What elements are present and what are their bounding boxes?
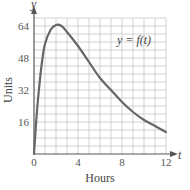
y-tick-label: 48 [18,52,30,64]
y-tick-label: 32 [18,84,29,96]
x-tick-label: 12 [161,156,172,168]
y-tick-label: 64 [18,20,30,32]
x-tick-labels: 04812 [31,156,171,168]
y-tick-labels: 16324864 [18,20,30,128]
curve-label: y = f(t) [116,33,151,47]
x-tick-label: 8 [119,156,125,168]
x-axis-variable: t [178,148,182,162]
axes [31,6,178,157]
x-tick-label: 4 [75,156,81,168]
y-axis-title: Units [1,77,15,103]
x-axis-title: Hours [85,171,115,185]
x-tick-label: 0 [31,156,37,168]
y-tick-label: 16 [18,116,30,128]
y-axis-variable: y [30,0,37,11]
chart: 04812 16324864 y = f(t) t y Hours Units [0,0,190,190]
